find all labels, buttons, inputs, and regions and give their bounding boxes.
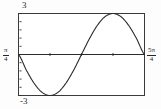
plot-frame xyxy=(18,13,145,96)
y-axis-min-label: -3 xyxy=(20,97,28,106)
y-axis-max-label: 3 xyxy=(22,1,27,10)
fraction-numerator: π xyxy=(3,47,9,54)
x-axis-max-label: 5π 4 xyxy=(147,46,156,64)
fraction-denominator: 4 xyxy=(3,56,9,63)
graph-screenshot: 3 -3 π 4 5π 4 xyxy=(0,0,161,109)
fraction-5pi-over-4: 5π 4 xyxy=(147,47,156,64)
x-axis-min-label: π 4 xyxy=(3,46,9,64)
fraction-pi-over-4: π 4 xyxy=(3,47,9,64)
fraction-numerator: 5π xyxy=(147,47,156,54)
fraction-denominator: 4 xyxy=(147,56,156,63)
